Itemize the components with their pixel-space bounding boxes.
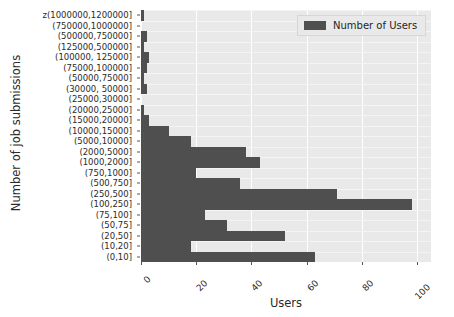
bar-row: [141, 126, 431, 137]
y-tick-mark: [137, 130, 140, 131]
bar-row: [141, 178, 431, 189]
y-tick-label: (500,750]: [90, 178, 132, 189]
y-tick-mark: [137, 235, 140, 236]
bar-row: [141, 168, 431, 179]
legend-swatch-number-of-users: [304, 21, 326, 30]
x-tick-label: 20: [194, 278, 209, 293]
bar[interactable]: [141, 168, 196, 179]
y-tick-label: (15000,20000]: [69, 115, 132, 126]
y-tick-label: (750,1000]: [85, 168, 132, 179]
y-tick-mark: [137, 172, 140, 173]
bar[interactable]: [141, 136, 191, 147]
bar-row: [141, 136, 431, 147]
y-tick-label: (1000,2000]: [79, 157, 132, 168]
y-tick-mark: [137, 36, 140, 37]
x-tick-mark: [362, 262, 363, 265]
bar-row: [141, 241, 431, 252]
x-tick-mark: [251, 262, 252, 265]
x-axis-title: Users: [141, 296, 431, 310]
bar-row: [141, 252, 431, 263]
bar-row: [141, 105, 431, 116]
bar[interactable]: [141, 178, 240, 189]
bar[interactable]: [141, 231, 285, 242]
bar[interactable]: [141, 31, 147, 42]
bar-row: [141, 231, 431, 242]
y-tick-mark: [137, 120, 140, 121]
plot-area: [141, 10, 431, 262]
bar[interactable]: [141, 157, 260, 168]
x-tick-label: 80: [360, 278, 375, 293]
y-tick-label: (75,100]: [96, 210, 132, 221]
y-tick-mark: [137, 141, 140, 142]
y-tick-label: (100,250]: [90, 199, 132, 210]
y-tick-label: (10000,15000]: [69, 126, 132, 137]
bar-row: [141, 189, 431, 200]
x-tick-label: 40: [250, 278, 265, 293]
y-tick-label: (500000,750000]: [58, 31, 132, 42]
bar[interactable]: [141, 63, 147, 74]
bar-row: [141, 42, 431, 53]
y-tick-label: (5000,10000]: [74, 136, 132, 147]
bar[interactable]: [141, 189, 337, 200]
bar[interactable]: [141, 126, 169, 137]
y-tick-mark: [137, 151, 140, 152]
bar-row: [141, 199, 431, 210]
bar[interactable]: [141, 252, 315, 263]
x-tick-label: 60: [305, 278, 320, 293]
y-tick-mark: [137, 225, 140, 226]
bar-row: [141, 63, 431, 74]
bar-row: [141, 94, 431, 105]
y-tick-label: (20000,25000]: [69, 105, 132, 116]
legend-label-number-of-users: Number of Users: [333, 20, 417, 31]
x-tick-mark: [307, 262, 308, 265]
y-tick-label: (10,20]: [101, 241, 132, 252]
bar-row: [141, 157, 431, 168]
bar[interactable]: [141, 199, 412, 210]
bar[interactable]: [141, 52, 149, 63]
bar[interactable]: [141, 241, 191, 252]
y-tick-mark: [137, 15, 140, 16]
y-tick-mark: [137, 214, 140, 215]
y-tick-label: z(1000000,1200000]: [42, 10, 132, 21]
bar[interactable]: [141, 115, 149, 126]
y-tick-mark: [137, 25, 140, 26]
bar-chart-figure: Number of job submissions z(1000000,1200…: [0, 0, 454, 317]
bar[interactable]: [141, 220, 227, 231]
y-tick-label: (125000,500000]: [58, 42, 132, 53]
y-tick-label: (30000, 50000]: [66, 84, 132, 95]
y-tick-mark: [137, 46, 140, 47]
bar[interactable]: [141, 84, 147, 95]
bar-row: [141, 84, 431, 95]
y-tick-label: (50000,75000]: [69, 73, 132, 84]
y-tick-mark: [137, 78, 140, 79]
bar[interactable]: [141, 210, 205, 221]
y-tick-mark: [137, 57, 140, 58]
bar[interactable]: [141, 10, 144, 21]
y-axis-tick-labels: z(1000000,1200000](750000,1000000](50000…: [0, 10, 137, 262]
x-tick-label: 0: [142, 274, 153, 285]
y-tick-label: (25000,30000]: [69, 94, 132, 105]
bar-row: [141, 220, 431, 231]
chart-legend: Number of Users: [297, 15, 426, 36]
y-tick-mark: [137, 193, 140, 194]
y-tick-label: (250,500]: [90, 189, 132, 200]
bar[interactable]: [141, 42, 144, 53]
y-tick-label: (100000, 125000]: [55, 52, 132, 63]
y-tick-label: (0,10]: [106, 252, 132, 263]
bar-row: [141, 210, 431, 221]
x-tick-mark: [417, 262, 418, 265]
y-tick-mark: [137, 204, 140, 205]
y-tick-mark: [137, 246, 140, 247]
y-tick-label: (75000,100000]: [63, 63, 132, 74]
y-tick-mark: [137, 99, 140, 100]
bar[interactable]: [141, 105, 144, 116]
bar[interactable]: [141, 147, 246, 158]
bar[interactable]: [141, 73, 144, 84]
x-tick-mark: [141, 262, 142, 265]
y-tick-mark: [137, 88, 140, 89]
y-tick-label: (2000,5000]: [79, 147, 132, 158]
bar-row: [141, 52, 431, 63]
y-tick-mark: [137, 256, 140, 257]
bar-row: [141, 73, 431, 84]
bar-row: [141, 147, 431, 158]
